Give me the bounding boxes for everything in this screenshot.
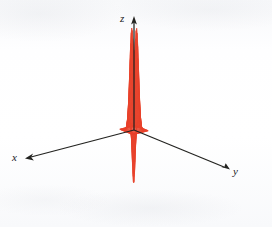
- y-axis-label: y: [233, 166, 238, 177]
- surface-plot-figure: z x y: [0, 0, 272, 227]
- x-axis-line: [31, 130, 134, 157]
- y-axis-line: [134, 130, 224, 167]
- surface-plot-canvas: [0, 0, 272, 227]
- coordinate-axes: [25, 16, 230, 170]
- x-axis-label: x: [12, 152, 17, 163]
- z-axis-label: z: [120, 13, 124, 24]
